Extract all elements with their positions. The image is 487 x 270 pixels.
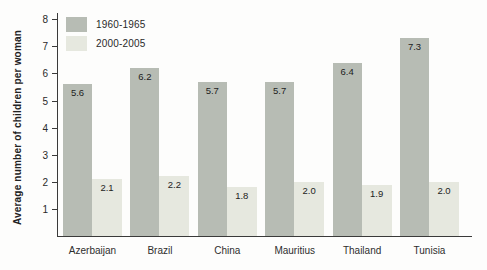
legend-item-1960-1965: 1960-1965 [66, 17, 146, 32]
value-label-1960-1965-china: 5.7 [198, 85, 227, 96]
value-label-2000-2005-china: 1.8 [227, 190, 257, 201]
value-label-2000-2005-thailand: 1.9 [362, 188, 392, 199]
value-label-1960-1965-mauritius: 5.7 [265, 85, 294, 96]
legend: 1960-1965 2000-2005 [66, 17, 146, 55]
y-tick-mark-5 [52, 101, 57, 102]
value-label-1960-1965-azerbaijan: 5.6 [63, 87, 92, 98]
bar-1960-1965-tunisia [400, 38, 429, 236]
legend-swatch-2000-2005 [66, 36, 87, 51]
x-axis-line [57, 236, 472, 237]
y-tick-label-8: 8 [30, 14, 48, 25]
bar-1960-1965-china [198, 82, 227, 236]
bar-1960-1965-mauritius [265, 82, 294, 236]
legend-item-2000-2005: 2000-2005 [66, 36, 146, 51]
bar-1960-1965-brazil [130, 68, 159, 236]
bar-1960-1965-azerbaijan [63, 84, 92, 236]
y-tick-label-4: 4 [30, 123, 48, 134]
y-tick-label-2: 2 [30, 177, 48, 188]
legend-label-1960-1965: 1960-1965 [96, 19, 146, 30]
value-label-1960-1965-brazil: 6.2 [130, 71, 159, 82]
y-tick-mark-1 [52, 209, 57, 210]
value-label-2000-2005-tunisia: 2.0 [429, 185, 459, 196]
y-tick-label-5: 5 [30, 96, 48, 107]
category-label-tunisia: Tunisia [390, 245, 470, 256]
y-axis-line [57, 13, 58, 236]
y-tick-mark-8 [52, 19, 57, 20]
bar-1960-1965-thailand [333, 63, 362, 236]
value-label-1960-1965-tunisia: 7.3 [400, 41, 429, 52]
legend-swatch-1960-1965 [66, 17, 87, 32]
value-label-2000-2005-mauritius: 2.0 [294, 185, 324, 196]
y-tick-label-7: 7 [30, 41, 48, 52]
y-tick-label-1: 1 [30, 204, 48, 215]
y-tick-mark-2 [52, 182, 57, 183]
value-label-2000-2005-azerbaijan: 2.1 [92, 182, 122, 193]
legend-label-2000-2005: 2000-2005 [96, 38, 146, 49]
value-label-2000-2005-brazil: 2.2 [159, 179, 189, 190]
value-label-1960-1965-thailand: 6.4 [333, 66, 362, 77]
y-tick-label-6: 6 [30, 68, 48, 79]
y-tick-mark-6 [52, 73, 57, 74]
y-axis-title: Average number of children per woman [12, 12, 25, 244]
y-tick-mark-4 [52, 128, 57, 129]
bar-chart-figure: Average number of children per woman 123… [0, 0, 487, 270]
y-tick-mark-7 [52, 46, 57, 47]
y-tick-label-3: 3 [30, 150, 48, 161]
y-tick-mark-3 [52, 155, 57, 156]
